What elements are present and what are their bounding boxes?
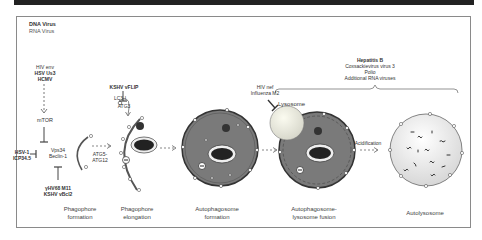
label-acidification: Acidification xyxy=(355,140,382,146)
bcl2-inhibition-bar xyxy=(54,167,62,180)
stage-phagophore-formation: Phagophore formation xyxy=(64,205,97,221)
stage-label-line2: lysosome fusion xyxy=(291,213,337,221)
label-kshv-vbcl2: KSHV vBcl2 xyxy=(44,191,73,197)
elongating-phagophore xyxy=(119,116,157,191)
stage-autophagosome-lysosome-fusion: Autophagosome- lysosome fusion xyxy=(291,205,337,221)
fusion-bracket xyxy=(275,85,458,93)
label-kshv-vflip: KSHV vFLIP xyxy=(110,84,139,90)
label-additional-rna-viruses: Additional RNA viruses xyxy=(345,75,396,81)
acidification-arrow xyxy=(360,148,378,153)
label-lc3-i: LC3-I xyxy=(114,95,126,101)
label-beclin-1: Beclin-1 xyxy=(49,153,67,159)
label-atg12: ATG12 xyxy=(92,157,107,163)
stage-label-line2: formation xyxy=(195,213,239,221)
stage-label-line1: Autolysosome xyxy=(406,209,444,217)
autolysosome xyxy=(388,112,463,187)
label-mtor: mTOR xyxy=(37,117,53,123)
stage-label-line1: Phagophore xyxy=(64,205,97,213)
stage-autolysosome: Autolysosome xyxy=(406,209,444,217)
stage-autophagosome-formation: Autophagosome formation xyxy=(195,205,239,221)
legend-dna-virus: DNA Virus xyxy=(29,21,56,27)
stage-phagophore-elongation: Phagophore elongation xyxy=(121,205,154,221)
phagophore-membrane xyxy=(77,134,92,170)
label-icp34-5: ICP34.5 xyxy=(13,155,31,161)
mtor-inhibition-bar xyxy=(40,127,48,142)
autophagosome xyxy=(181,108,258,187)
dashed-arrow-2 xyxy=(160,146,176,151)
stage-label-line2: elongation xyxy=(121,213,154,221)
lysosome xyxy=(270,106,304,140)
label-influenza-m2: Influenza M2 xyxy=(251,90,280,96)
autophagy-pathway-illustration xyxy=(0,0,482,240)
stage-label-line1: Phagophore xyxy=(121,205,154,213)
label-hcmv: HCMV xyxy=(38,76,53,82)
label-lysosome: Lysosome xyxy=(278,101,305,107)
stage-label-line1: Autophagosome xyxy=(195,205,239,213)
legend-rna-virus: RNA Virus xyxy=(29,28,54,34)
mtor-activation-arrow xyxy=(41,84,47,113)
label-atg3: ATG3 xyxy=(118,103,131,109)
dashed-arrow-3 xyxy=(262,148,277,153)
stage-label-line2: formation xyxy=(64,213,97,221)
stage-label-line1: Autophagosome- xyxy=(291,205,337,213)
dashed-arrow-1 xyxy=(92,144,111,149)
